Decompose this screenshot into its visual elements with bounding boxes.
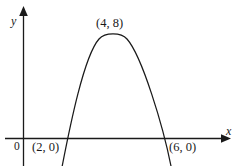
parabola-figure: y x 0 (4, 8) (2, 0) (6, 0) [0,0,239,166]
origin-label: 0 [14,141,20,153]
x-axis-label: x [226,125,231,137]
parabola-curve [62,34,171,166]
vertex-point-label: (4, 8) [96,17,123,30]
left-root-point-label: (2, 0) [32,141,59,154]
right-root-point-label: (6, 0) [169,141,196,154]
y-axis-arrow-icon [19,6,28,16]
y-axis-label: y [11,15,16,27]
